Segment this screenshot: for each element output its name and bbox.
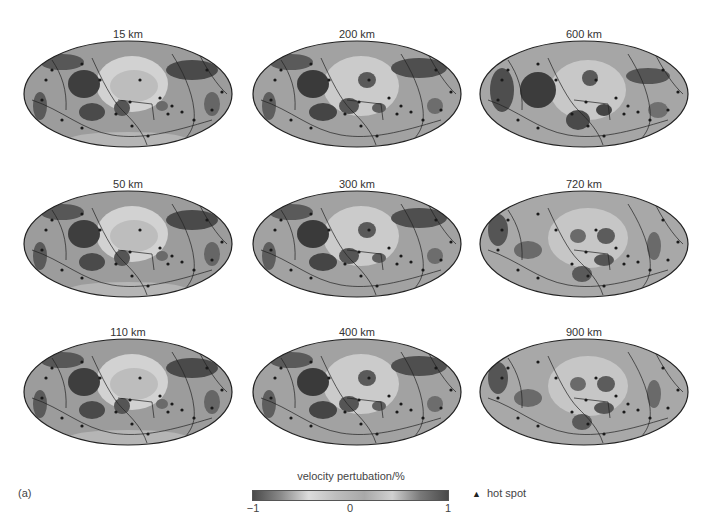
colorbar-tick-max: 1 (445, 502, 451, 514)
map-panel-200km: 200 km (251, 28, 463, 158)
tomography-map (478, 190, 690, 298)
map-panel-15km: 15 km (22, 28, 234, 158)
depth-label: 110 km (22, 326, 234, 338)
tomography-map (22, 338, 234, 446)
depth-label: 900 km (478, 326, 690, 338)
tomography-map (478, 338, 690, 446)
map-panel-50km: 50 km (22, 178, 234, 308)
map-panel-110km: 110 km (22, 326, 234, 456)
depth-label: 300 km (251, 178, 463, 190)
depth-label: 720 km (478, 178, 690, 190)
colorbar-tick-zero: 0 (347, 502, 353, 514)
tomography-map (478, 40, 690, 148)
depth-label: 400 km (251, 326, 463, 338)
map-panel-900km: 900 km (478, 326, 690, 456)
depth-label: 15 km (22, 28, 234, 40)
map-panel-300km: 300 km (251, 178, 463, 308)
colorbar-tick-min: −1 (247, 502, 260, 514)
legend-hotspot: ▲hot spot (472, 487, 526, 499)
hotspot-label: hot spot (487, 487, 526, 499)
map-panel-400km: 400 km (251, 326, 463, 456)
tomography-map (22, 190, 234, 298)
colorbar (252, 490, 449, 501)
depth-label: 200 km (251, 28, 463, 40)
tomography-map (251, 190, 463, 298)
map-panel-600km: 600 km (478, 28, 690, 158)
map-panel-720km: 720 km (478, 178, 690, 308)
figure-tag: (a) (18, 487, 31, 499)
tomography-map (22, 40, 234, 148)
triangle-icon: ▲ (472, 489, 481, 499)
depth-label: 50 km (22, 178, 234, 190)
tomography-map (251, 40, 463, 148)
tomography-map (251, 338, 463, 446)
colorbar-title: velocity pertubation/% (252, 470, 450, 482)
depth-label: 600 km (478, 28, 690, 40)
